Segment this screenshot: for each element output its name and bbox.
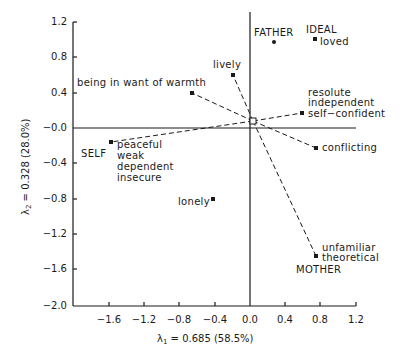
label-loved: loved <box>320 36 349 47</box>
x-tick-label: −0.4 <box>203 314 227 325</box>
label-conflicting: conflicting <box>322 142 377 153</box>
point-lively <box>231 73 235 77</box>
y-tick-label: −0.8 <box>43 193 67 204</box>
x-axis-title: λ1 = 0.685 (58.5%) <box>157 333 254 346</box>
y-tick-label: −1.2 <box>43 228 67 239</box>
y-tick-label: −0.4 <box>43 157 67 168</box>
label-peaceful: peaceful <box>117 139 162 150</box>
y-tick-label: −2.0 <box>43 300 67 311</box>
label-ideal: IDEAL <box>306 24 337 35</box>
x-tick-label: 1.2 <box>348 314 364 325</box>
point-ideal <box>313 37 317 41</box>
point-conflicting <box>314 146 318 150</box>
label-lonely: lonely <box>178 196 210 207</box>
x-tick-label: −1.6 <box>97 314 121 325</box>
label-lively: lively <box>213 59 241 70</box>
label-dependent: dependent <box>117 161 174 172</box>
label-father: FATHER <box>254 27 294 38</box>
point-lonely <box>211 197 215 201</box>
y-tick-label: 0.8 <box>51 51 67 62</box>
point-mother <box>314 254 318 258</box>
x-tick-label: 0.0 <box>242 314 258 325</box>
x-tick-label: 0.4 <box>277 314 293 325</box>
point-father <box>272 40 276 44</box>
label-self: SELF <box>81 148 106 159</box>
x-tick-label: 0.8 <box>312 314 328 325</box>
y-axis-title: λ2 = 0.328 (28.0%) <box>20 118 33 215</box>
label-weak: weak <box>117 150 144 161</box>
centroid-square-icon <box>250 118 256 124</box>
y-ticks: 1.2 0.8 0.4 −0.0 −0.4 −0.8 −1.2 −1.6 −2.… <box>43 16 77 311</box>
correspondence-plot: 1.2 0.8 0.4 −0.0 −0.4 −0.8 −1.2 −1.6 −2.… <box>0 0 409 362</box>
label-self-confident: self−confident <box>308 108 385 119</box>
label-warmth: being in want of warmth <box>77 77 206 88</box>
label-mother: MOTHER <box>296 264 341 275</box>
label-theoretical: theoretical <box>322 252 379 263</box>
y-tick-label: −1.6 <box>43 263 67 274</box>
point-warmth <box>190 91 194 95</box>
point-self <box>109 140 113 144</box>
point-resolute <box>300 111 304 115</box>
label-independent: independent <box>308 97 375 108</box>
label-insecure: insecure <box>117 172 162 183</box>
x-tick-label: −1.2 <box>132 314 156 325</box>
x-tick-label: −0.8 <box>167 314 191 325</box>
y-tick-label: 1.2 <box>51 16 67 27</box>
y-tick-label: 0.4 <box>51 87 67 98</box>
y-tick-label: −0.0 <box>43 122 67 133</box>
